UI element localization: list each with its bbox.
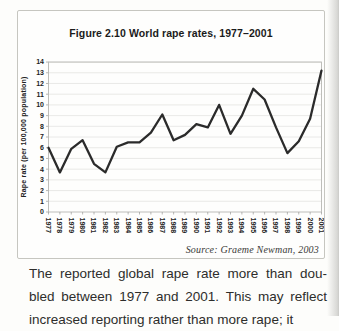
x-tick-label: 1997 — [272, 218, 279, 234]
x-tick-label: 1978 — [56, 218, 63, 234]
x-tick-label: 1992 — [216, 218, 223, 234]
y-tick-label: 3 — [40, 176, 44, 183]
x-tick-label: 1990 — [193, 218, 200, 234]
data-line — [49, 71, 322, 173]
x-tick-label: 1994 — [238, 218, 245, 234]
line-chart: 0123456789101112131419771978197919801981… — [18, 11, 324, 258]
y-tick-label: 12 — [36, 80, 44, 87]
y-tick-label: 0 — [40, 208, 44, 215]
caption-paragraph: The reported global rape rate more than … — [29, 262, 327, 331]
y-tick-label: 10 — [36, 101, 44, 108]
x-tick-label: 1993 — [227, 218, 234, 234]
y-tick-label: 1 — [40, 198, 44, 205]
x-tick-label: 1988 — [170, 218, 177, 234]
y-tick-label: 14 — [36, 58, 44, 65]
y-tick-label: 5 — [40, 155, 44, 162]
x-tick-label: 1995 — [250, 218, 257, 234]
x-tick-label: 1980 — [79, 218, 86, 234]
x-tick-label: 1985 — [136, 218, 143, 234]
x-tick-label: 1981 — [90, 218, 97, 234]
x-tick-label: 1986 — [147, 218, 154, 234]
figure-title: Figure 2.10 World rape rates, 1977–2001 — [18, 27, 324, 39]
y-tick-label: 4 — [40, 166, 44, 173]
y-tick-label: 7 — [40, 133, 44, 140]
y-tick-label: 8 — [40, 123, 44, 130]
caption-line: bled between 1977 and 2001. This may ref… — [29, 285, 327, 308]
line-chart-svg: 0123456789101112131419771978197919801981… — [18, 11, 324, 258]
x-tick-label: 1977 — [45, 218, 52, 234]
x-tick-label: 2001 — [318, 218, 324, 234]
x-tick-label: 1987 — [159, 218, 166, 234]
x-tick-label: 1989 — [181, 218, 188, 234]
y-tick-label: 6 — [40, 144, 44, 151]
caption-line: The reported global rape rate more than … — [29, 262, 327, 285]
figure-source: Source: Graeme Newman, 2003 — [186, 244, 319, 255]
page-edge-shadow — [327, 0, 339, 316]
y-tick-label: 2 — [40, 187, 44, 194]
y-tick-label: 11 — [37, 91, 45, 98]
y-axis-title: Rape rate (per 100,000 population) — [20, 76, 28, 197]
y-tick-label: 9 — [40, 112, 44, 119]
x-tick-label: 1979 — [68, 218, 75, 234]
x-tick-label: 1996 — [261, 218, 268, 234]
y-tick-label: 13 — [36, 69, 44, 76]
caption-line: increased reporting rather than more rap… — [29, 308, 327, 331]
x-tick-label: 1984 — [125, 218, 132, 234]
x-tick-label: 2000 — [307, 218, 314, 234]
x-tick-label: 1999 — [295, 218, 302, 234]
x-tick-label: 1998 — [284, 218, 291, 234]
x-tick-label: 1982 — [102, 218, 109, 234]
x-tick-label: 1983 — [113, 218, 120, 234]
x-tick-label: 1991 — [204, 218, 211, 234]
figure-box: 0123456789101112131419771978197919801981… — [17, 10, 325, 259]
